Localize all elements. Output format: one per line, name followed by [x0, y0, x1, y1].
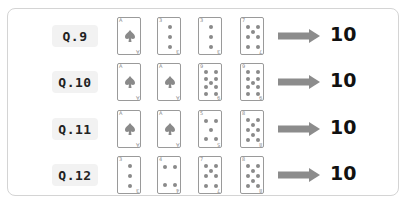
suit-pip-icon [251, 133, 255, 137]
question-row: Q.9AA33337710 [0, 15, 406, 59]
card-rank: A [136, 142, 139, 147]
card-rank: 9 [259, 95, 262, 100]
card-rank: A [176, 95, 179, 100]
card-rank: 7 [217, 188, 220, 193]
card-rank: A [159, 111, 162, 116]
card-rank: 4 [176, 188, 179, 193]
playing-card: 44 [157, 156, 181, 194]
card-rank: 3 [176, 49, 179, 54]
suit-pip-icon [204, 184, 208, 188]
question-label: Q.12 [52, 164, 98, 186]
suit-pip-icon [168, 35, 172, 39]
suit-pip-icon [256, 77, 260, 81]
suit-pip-icon [214, 137, 218, 141]
suit-pip-icon [214, 92, 218, 96]
card-rank: 9 [242, 64, 245, 69]
suit-pip-icon [214, 119, 218, 123]
suit-pip-icon [214, 174, 218, 178]
suit-pip-icon [209, 45, 213, 49]
card-rank: A [119, 64, 122, 69]
card-rank: 7 [200, 157, 203, 162]
suit-pip-icon [204, 137, 208, 141]
suit-pip-icon [251, 169, 255, 173]
suit-pip-icon [246, 128, 250, 132]
suit-pip-icon [246, 85, 250, 89]
playing-card: AA [157, 110, 181, 148]
suit-pip-icon [256, 25, 260, 29]
arrow-right-icon [278, 122, 320, 136]
suit-pip-icon [256, 164, 260, 168]
suit-pip-icon [163, 183, 167, 187]
card-rank: 3 [136, 188, 139, 193]
playing-card: 88 [240, 110, 264, 148]
card-rank: 8 [259, 142, 262, 147]
suit-pip-icon [251, 30, 255, 34]
suit-pip-icon [246, 25, 250, 29]
card-rank: A [136, 95, 139, 100]
card-rank: 9 [200, 64, 203, 69]
suit-pip-icon [246, 138, 250, 142]
result-value: 10 [330, 116, 356, 138]
playing-card: 33 [117, 156, 141, 194]
suit-pip-icon [163, 165, 167, 169]
card-rank: 4 [159, 157, 162, 162]
spade-icon [125, 30, 135, 42]
suit-pip-icon [128, 174, 132, 178]
suit-pip-icon [168, 25, 172, 29]
card-rank: A [119, 18, 122, 23]
arrow-right-icon [278, 29, 320, 43]
suit-pip-icon [256, 128, 260, 132]
card-rank: A [119, 111, 122, 116]
suit-pip-icon [246, 184, 250, 188]
card-rank: 7 [259, 49, 262, 54]
suit-pip-icon [168, 45, 172, 49]
suit-pip-icon [246, 77, 250, 81]
arrow-right-icon [278, 168, 320, 182]
result-value: 10 [330, 69, 356, 91]
suit-pip-icon [251, 123, 255, 127]
suit-pip-icon [204, 119, 208, 123]
playing-card: 55 [198, 110, 222, 148]
question-label: Q.11 [52, 118, 98, 140]
card-rank: A [159, 64, 162, 69]
suit-pip-icon [173, 165, 177, 169]
card-rank: 3 [159, 18, 162, 23]
suit-pip-icon [204, 85, 208, 89]
suit-pip-icon [128, 164, 132, 168]
playing-card: 88 [240, 156, 264, 194]
playing-card: 77 [198, 156, 222, 194]
playing-card: 77 [240, 17, 264, 55]
playing-card: 99 [240, 63, 264, 101]
suit-pip-icon [209, 25, 213, 29]
spade-icon [165, 76, 175, 88]
suit-pip-icon [256, 92, 260, 96]
card-rank: 5 [200, 111, 203, 116]
suit-pip-icon [256, 35, 260, 39]
suit-pip-icon [246, 70, 250, 74]
playing-card: AA [117, 17, 141, 55]
question-row: Q.11AAAA558810 [0, 108, 406, 152]
suit-pip-icon [251, 179, 255, 183]
question-row: Q.123344778810 [0, 154, 406, 198]
suit-pip-icon [246, 118, 250, 122]
spade-icon [165, 123, 175, 135]
suit-pip-icon [256, 85, 260, 89]
card-rank: A [176, 142, 179, 147]
playing-card: AA [117, 63, 141, 101]
suit-pip-icon [214, 164, 218, 168]
card-rank: 3 [200, 18, 203, 23]
result-value: 10 [330, 162, 356, 184]
suit-pip-icon [204, 174, 208, 178]
playing-card: AA [157, 63, 181, 101]
suit-pip-icon [256, 138, 260, 142]
question-label: Q.9 [52, 25, 98, 47]
result-value: 10 [330, 23, 356, 45]
playing-card: 99 [198, 63, 222, 101]
spade-icon [125, 76, 135, 88]
card-rank: 3 [217, 49, 220, 54]
card-rank: A [136, 49, 139, 54]
card-rank: 3 [119, 157, 122, 162]
suit-pip-icon [246, 174, 250, 178]
suit-pip-icon [251, 81, 255, 85]
arrow-right-icon [278, 75, 320, 89]
